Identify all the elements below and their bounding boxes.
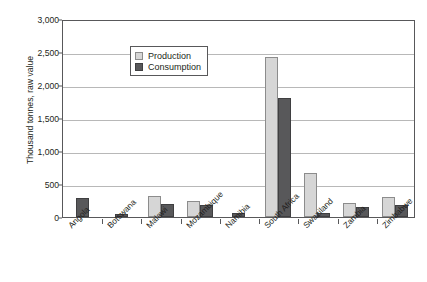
y-axis-title: Thousand tonnes, raw value bbox=[25, 20, 35, 200]
bar-groups bbox=[63, 21, 414, 217]
y-tick-label: 2,500 bbox=[0, 48, 59, 58]
y-tick-label: 0 bbox=[0, 213, 59, 223]
y-tick-label: 3,000 bbox=[0, 15, 59, 25]
legend-label-production: Production bbox=[148, 51, 191, 61]
bar-production bbox=[265, 57, 278, 217]
chart-title-cropped bbox=[78, 0, 378, 4]
x-axis-labels: AngolaBotswanaMalawiMozambiqueNamibiaSou… bbox=[62, 221, 415, 281]
legend-item-production: Production bbox=[135, 50, 201, 61]
bar-group bbox=[297, 21, 336, 217]
bar-group bbox=[219, 21, 258, 217]
y-tick-label: 1,500 bbox=[0, 114, 59, 124]
legend-label-consumption: Consumption bbox=[148, 62, 201, 72]
bar-group bbox=[258, 21, 297, 217]
bar-group bbox=[336, 21, 375, 217]
bar-group bbox=[375, 21, 414, 217]
y-tick-label: 1,000 bbox=[0, 147, 59, 157]
y-tick-label: 500 bbox=[0, 180, 59, 190]
legend-swatch-production-icon bbox=[135, 52, 143, 60]
legend-swatch-consumption-icon bbox=[135, 63, 143, 71]
bar-group bbox=[63, 21, 102, 217]
legend-item-consumption: Consumption bbox=[135, 61, 201, 72]
chart-container: Thousand tonnes, raw value 3,0002,5002,0… bbox=[0, 0, 427, 282]
y-tick-label: 2,000 bbox=[0, 81, 59, 91]
legend: Production Consumption bbox=[130, 46, 208, 76]
plot-area: Production Consumption bbox=[62, 20, 415, 218]
